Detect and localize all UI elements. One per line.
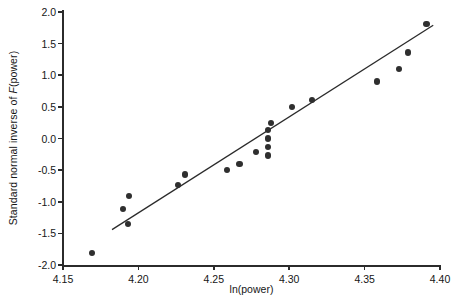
x-tick-mark-2 <box>213 265 215 270</box>
y-axis-title-suffix: (power) <box>7 51 19 87</box>
y-tick-label: -2.0 <box>38 260 56 271</box>
y-axis-title: Standard normal inverse of F(power) <box>0 0 26 276</box>
x-tick-mark-5 <box>439 265 441 270</box>
data-point <box>374 78 380 84</box>
data-point <box>405 49 411 55</box>
data-point <box>265 152 271 158</box>
regression-line <box>63 12 440 265</box>
x-tick-mark-0 <box>62 265 64 270</box>
x-tick-mark-3 <box>288 265 290 270</box>
y-tick-label: 0.5 <box>41 102 56 113</box>
normal-probability-plot: Standard normal inverse of F(power) 2.01… <box>0 0 462 306</box>
y-tick-mark <box>58 138 62 140</box>
x-tick-mark-1 <box>138 265 140 270</box>
y-tick-mark <box>58 11 62 13</box>
x-axis-title: ln(power) <box>63 283 440 295</box>
y-tick-mark <box>58 201 62 203</box>
y-tick-mark <box>58 169 62 171</box>
data-point <box>236 161 242 167</box>
y-axis-title-text: Standard normal inverse of F(power) <box>7 51 19 226</box>
y-tick-label: 2.0 <box>41 7 56 18</box>
y-axis-title-italic: F <box>7 87 19 94</box>
y-tick-mark <box>58 106 62 108</box>
y-tick-label: 1.0 <box>41 70 56 81</box>
y-tick-mark <box>58 74 62 76</box>
y-tick-label: -1.5 <box>38 228 56 239</box>
y-tick-mark <box>58 43 62 45</box>
y-tick-mark <box>58 233 62 235</box>
y-axis-title-prefix: Standard normal inverse of <box>7 94 19 226</box>
data-point <box>268 120 274 126</box>
x-axis-line <box>62 265 441 267</box>
y-tick-label: -0.5 <box>38 165 56 176</box>
data-point <box>423 21 429 27</box>
y-tick-label: 0.0 <box>41 133 56 144</box>
data-point <box>265 144 271 150</box>
x-tick-mark-4 <box>364 265 366 270</box>
y-tick-label: 1.5 <box>41 38 56 49</box>
y-tick-label: -1.0 <box>38 197 56 208</box>
data-point <box>125 221 131 227</box>
data-point <box>265 135 271 141</box>
data-point <box>89 250 95 256</box>
data-point <box>253 149 259 155</box>
plot-area: 2.01.51.00.50.0-0.5-1.0-1.5-2.0 4.154.20… <box>63 12 440 265</box>
data-point <box>175 182 181 188</box>
data-point <box>182 171 188 177</box>
data-point <box>309 97 315 103</box>
